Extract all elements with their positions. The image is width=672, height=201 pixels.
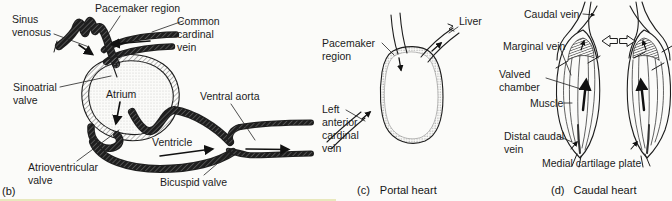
flow-arrow-icon — [631, 142, 637, 149]
hollow-arrow-left-icon — [602, 36, 617, 47]
fish-hearts-figure: Sinus venosus Pacemaker region Common ca… — [0, 0, 672, 201]
portal-heart-sac-shape — [380, 47, 443, 144]
bicuspid-valve-shape — [228, 127, 246, 154]
label-pacemaker-region-b: Pacemaker region — [95, 2, 180, 15]
scan-edge-tint — [0, 199, 336, 201]
label-common-cardinal-vein: Common cardinal vein — [177, 15, 229, 54]
label-ventral-aorta: Ventral aorta — [200, 90, 260, 103]
label-sinus-venosus: Sinus venosus — [12, 13, 60, 39]
label-sinoatrial-valve: Sinoatrial valve — [13, 81, 65, 107]
label-medial-cartilage-plate: Medial cartilage plate — [542, 157, 641, 170]
label-ventricle: Ventricle — [152, 136, 192, 149]
panel-c-caption: (c) Portal heart — [357, 184, 437, 196]
panel-b-marker: (b) — [2, 185, 15, 197]
label-atrium: Atrium — [106, 88, 136, 101]
label-left-anterior-cardinal-vein: Left anterior cardinal vein — [322, 103, 370, 155]
caudal-heart-right-shape — [627, 2, 672, 167]
flow-arrow-icon — [246, 149, 288, 150]
ventral-aorta-shape — [233, 123, 311, 156]
label-pacemaker-region-c: Pacemaker region — [322, 37, 384, 63]
label-bicuspid-valve: Bicuspid valve — [160, 176, 227, 189]
label-marginal-vein: Marginal vein — [503, 40, 565, 53]
label-muscle: Muscle — [530, 97, 563, 110]
label-caudal-vein: Caudal vein — [524, 8, 579, 21]
panel-d-marker: (d) — [551, 184, 564, 196]
panel-c-marker: (c) — [357, 184, 370, 196]
panel-c-title: Portal heart — [380, 184, 437, 196]
label-valved-chamber: Valved chamber — [499, 68, 555, 94]
label-atrioventricular-valve: Atrioventricular valve — [28, 161, 120, 187]
hollow-arrows — [602, 36, 635, 47]
flow-arrow-icon — [160, 149, 212, 156]
panel-b-caption: (b) — [2, 185, 25, 197]
flow-arrow-icon — [79, 45, 92, 54]
label-distal-caudal-vein: Distal caudal vein — [504, 130, 572, 156]
label-liver: Liver — [459, 15, 482, 28]
panel-d-title: Caudal heart — [573, 184, 636, 196]
panel-d-caption: (d) Caudal heart — [551, 184, 636, 196]
